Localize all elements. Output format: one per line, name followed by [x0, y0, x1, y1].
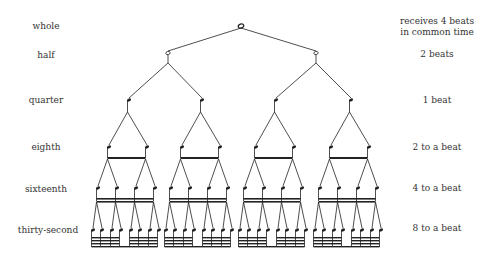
beam [108, 157, 146, 159]
whole-note-icon [238, 23, 245, 29]
beam [255, 157, 293, 159]
beam [330, 157, 368, 159]
beam [181, 157, 219, 159]
half-note-icon [165, 51, 170, 56]
half-note-icon [313, 51, 318, 56]
note-division-tree [0, 0, 485, 262]
